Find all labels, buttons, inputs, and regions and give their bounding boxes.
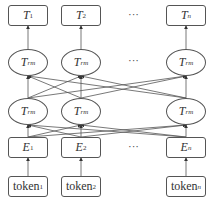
node-subscript: 2	[83, 144, 87, 152]
output-node-t1: T1	[8, 5, 48, 26]
node-label: T	[23, 8, 30, 23]
node-label: token	[13, 179, 40, 194]
node-subscript: rm	[80, 108, 88, 116]
node-label: T	[21, 55, 28, 70]
node-label: E	[76, 140, 83, 155]
node-label: token	[66, 179, 93, 194]
embedding-node-e2: E2	[61, 137, 101, 158]
node-subscript: 1	[30, 144, 34, 152]
transformer-node-r2-1: Trm	[8, 98, 48, 125]
output-node-t2: T2	[61, 5, 101, 26]
node-label: E	[23, 140, 30, 155]
transformer-node-r1-1: Trm	[8, 49, 48, 76]
output-node-tn: Tn	[166, 5, 206, 26]
node-label: E	[181, 140, 188, 155]
node-subscript: 2	[93, 183, 97, 191]
node-subscript: rm	[27, 108, 35, 116]
node-subscript: 1	[30, 12, 34, 20]
node-subscript: rm	[185, 108, 193, 116]
node-subscript: rm	[80, 59, 88, 67]
transformer-node-r2-2: Trm	[61, 98, 101, 125]
embedding-node-en: En	[166, 137, 206, 158]
node-label: T	[76, 8, 83, 23]
transformer-node-r1-2: Trm	[61, 49, 101, 76]
node-subscript: 2	[83, 12, 87, 20]
ellipsis-output: ···	[128, 8, 139, 20]
node-label: T	[179, 104, 186, 119]
node-label: token	[171, 179, 198, 194]
node-label: T	[181, 8, 188, 23]
token-node-n: tokenn	[166, 176, 206, 197]
node-subscript: rm	[185, 59, 193, 67]
node-subscript: n	[198, 183, 202, 191]
ellipsis-embedding: ···	[128, 140, 139, 152]
ellipsis-transformer: ···	[128, 54, 139, 66]
node-label: T	[74, 55, 81, 70]
embedding-node-e1: E1	[8, 137, 48, 158]
transformer-node-r2-n: Trm	[166, 98, 206, 125]
token-node-1: token1	[8, 176, 48, 197]
node-label: T	[21, 104, 28, 119]
node-label: T	[179, 55, 186, 70]
node-subscript: n	[188, 144, 192, 152]
node-subscript: rm	[27, 59, 35, 67]
node-subscript: n	[188, 12, 192, 20]
node-subscript: 1	[40, 183, 44, 191]
token-node-2: token2	[61, 176, 101, 197]
transformer-node-r1-n: Trm	[166, 49, 206, 76]
node-label: T	[74, 104, 81, 119]
